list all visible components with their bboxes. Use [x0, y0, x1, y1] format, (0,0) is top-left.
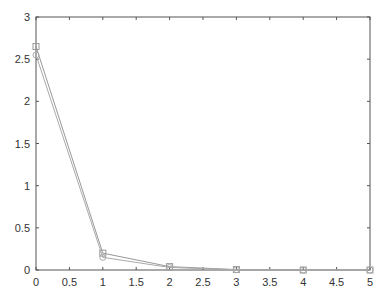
y-tick-label: 1.5: [15, 138, 30, 150]
series-circles-line: [36, 55, 370, 270]
x-tick-label: 0.5: [62, 276, 77, 288]
y-tick-label: 1: [24, 180, 30, 192]
y-tick-label: 2: [24, 95, 30, 107]
plot-axes: [36, 17, 370, 270]
plot-series: [33, 44, 373, 273]
x-tick-label: 4: [300, 276, 306, 288]
x-tick-label: 0: [33, 276, 39, 288]
x-tick-label: 4.5: [329, 276, 344, 288]
x-tick-label: 1.5: [129, 276, 144, 288]
line-chart: 00.511.522.533.544.5500.511.522.53: [0, 0, 391, 301]
x-tick-label: 3.5: [262, 276, 277, 288]
y-tick-label: 0: [24, 264, 30, 276]
y-tick-label: 0.5: [15, 222, 30, 234]
y-tick-label: 2.5: [15, 53, 30, 65]
x-tick-label: 1: [100, 276, 106, 288]
tick-labels: 00.511.522.533.544.5500.511.522.53: [15, 11, 373, 288]
x-tick-label: 3: [233, 276, 239, 288]
x-tick-label: 2: [167, 276, 173, 288]
plot-frame: [36, 17, 370, 270]
series-squares-line: [36, 47, 370, 270]
x-tick-label: 5: [367, 276, 373, 288]
x-tick-label: 2.5: [195, 276, 210, 288]
y-tick-label: 3: [24, 11, 30, 23]
